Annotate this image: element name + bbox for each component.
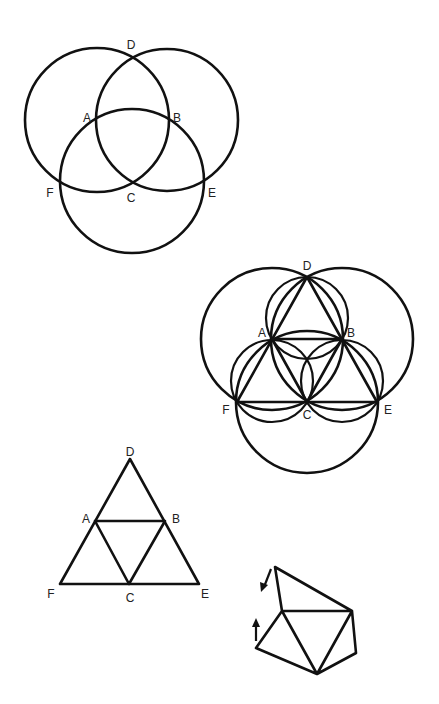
label-c: C — [127, 191, 136, 205]
label-d: D — [127, 38, 136, 52]
down-left-arrow-icon — [260, 569, 271, 592]
label-b: B — [347, 326, 355, 340]
label-a: A — [82, 512, 90, 526]
diagram-folding-net — [252, 567, 356, 674]
label-a: A — [83, 111, 91, 125]
label-d: D — [303, 259, 312, 273]
up-arrow-icon — [252, 618, 260, 641]
diagram-subdivided-triangle: D A B F C E — [47, 445, 209, 605]
circle-b — [96, 49, 238, 191]
label-d: D — [126, 445, 135, 459]
inner-triangle — [272, 339, 342, 402]
inner-circle-dab — [266, 277, 348, 359]
diagram-three-circles: D A B F C E — [25, 38, 238, 253]
label-f: F — [46, 186, 53, 200]
geometry-figure: D A B F C E D A B F C E D A B F C E — [0, 0, 439, 704]
label-f: F — [47, 587, 54, 601]
label-a: A — [258, 326, 266, 340]
label-c: C — [126, 591, 135, 605]
net-outline — [256, 567, 356, 674]
label-b: B — [172, 512, 180, 526]
label-e: E — [208, 186, 216, 200]
inner-triangle — [95, 521, 165, 584]
label-b: B — [173, 111, 181, 125]
label-c: C — [303, 408, 312, 422]
diagram-circles-with-triangle: D A B F C E — [201, 259, 413, 473]
label-e: E — [201, 587, 209, 601]
label-e: E — [384, 403, 392, 417]
label-f: F — [222, 403, 229, 417]
